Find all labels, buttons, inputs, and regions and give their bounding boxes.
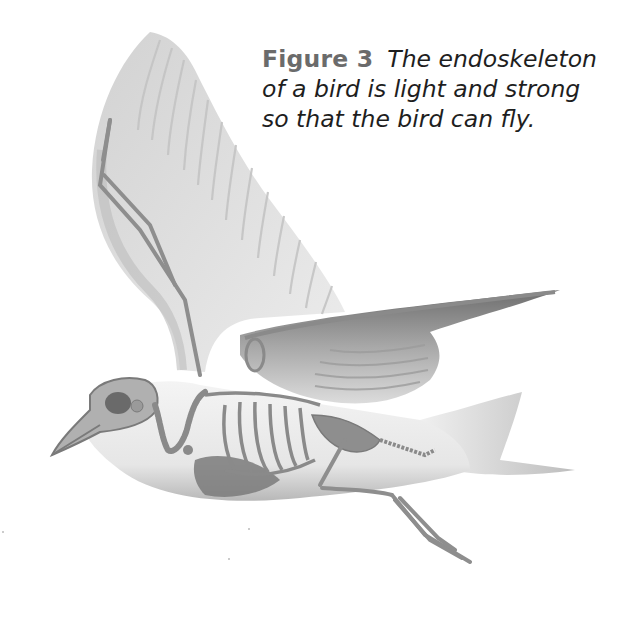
figure-label: Figure 3 — [262, 45, 373, 73]
figure-caption: Figure 3The endoskeleton of a bird is li… — [262, 44, 612, 134]
figure: Figure 3The endoskeleton of a bird is li… — [0, 0, 626, 622]
